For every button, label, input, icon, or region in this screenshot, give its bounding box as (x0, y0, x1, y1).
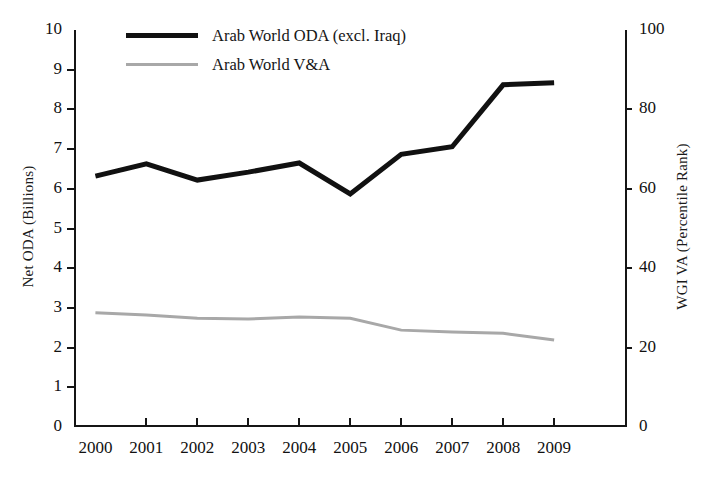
plot-area (74, 30, 627, 427)
x-axis-tick (298, 418, 300, 426)
left-axis-tick-label: 2 (22, 337, 62, 357)
left-axis-tick (67, 148, 74, 150)
left-axis-tick (67, 228, 74, 230)
right-axis-tick-label: 100 (639, 19, 683, 39)
right-axis-tick (625, 267, 632, 269)
left-axis-tick (67, 188, 74, 190)
legend-label-oda: Arab World ODA (excl. Iraq) (212, 26, 406, 46)
left-axis-line (74, 30, 76, 427)
left-axis-tick-label: 10 (22, 19, 62, 39)
left-axis-tick-label: 4 (22, 257, 62, 277)
legend-label-va: Arab World V&A (212, 55, 330, 75)
chart-legend: Arab World ODA (excl. Iraq) Arab World V… (126, 21, 406, 79)
x-axis-tick-label: 2009 (524, 438, 584, 458)
x-axis-tick (553, 418, 555, 426)
left-axis-tick (67, 347, 74, 349)
left-axis-tick-label: 5 (22, 218, 62, 238)
left-axis-tick-label: 9 (22, 59, 62, 79)
chart-figure: Net ODA (Billions) WGI VA (Percentile Ra… (0, 0, 716, 485)
legend-item-va: Arab World V&A (126, 50, 406, 79)
x-axis-tick (502, 418, 504, 426)
left-axis-tick-label: 8 (22, 98, 62, 118)
legend-swatch-va-icon (126, 63, 198, 66)
right-axis-tick (625, 108, 632, 110)
right-axis-tick-label: 0 (639, 416, 683, 436)
left-axis-tick-label: 0 (22, 416, 62, 436)
right-axis-tick-label: 80 (639, 98, 683, 118)
legend-item-oda: Arab World ODA (excl. Iraq) (126, 21, 406, 50)
right-axis-tick (625, 188, 632, 190)
x-axis-tick (145, 418, 147, 426)
series-line (95, 313, 554, 340)
left-axis-tick-label: 7 (22, 138, 62, 158)
left-axis-tick-label: 1 (22, 376, 62, 396)
left-axis-tick-label: 3 (22, 297, 62, 317)
right-axis-tick (625, 347, 632, 349)
series-line (95, 83, 554, 194)
legend-swatch-oda-icon (126, 33, 198, 38)
series-lines (74, 30, 627, 427)
right-axis-tick-label: 20 (639, 337, 683, 357)
left-axis-tick (67, 386, 74, 388)
right-axis-tick-label: 40 (639, 257, 683, 277)
left-axis-tick (67, 108, 74, 110)
x-axis-tick (451, 418, 453, 426)
left-axis-tick-label: 6 (22, 178, 62, 198)
left-axis-tick (67, 69, 74, 71)
left-axis-tick (67, 307, 74, 309)
left-axis-tick (67, 267, 74, 269)
x-axis-tick (349, 418, 351, 426)
x-axis-tick (400, 418, 402, 426)
right-axis-title: WGI VA (Percentile Rank) (674, 117, 691, 337)
x-axis-tick (196, 418, 198, 426)
right-axis-tick-label: 60 (639, 178, 683, 198)
right-axis-line (625, 30, 627, 427)
x-axis-tick (247, 418, 249, 426)
